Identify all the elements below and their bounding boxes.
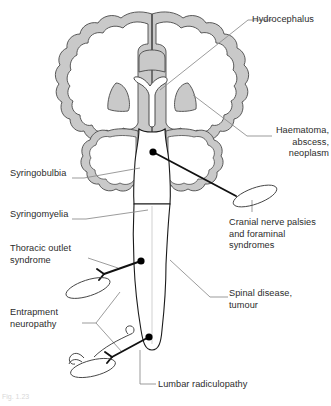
nerve-ellipses-group xyxy=(64,181,280,382)
label-cranial-nerve-palsies: Cranial nerve palsies and foraminal synd… xyxy=(229,217,329,252)
leader-spinal-disease xyxy=(170,260,228,297)
marker-cervical xyxy=(137,257,144,264)
entrapment-loop-upper xyxy=(126,326,134,334)
cerebrum-group xyxy=(55,12,248,146)
label-entrapment-neuropathy: Entrapment neuropathy xyxy=(10,307,82,330)
lower-nerve-trunk xyxy=(94,334,131,357)
spinal-cord xyxy=(133,204,170,350)
leader-entrapment-upper xyxy=(96,292,120,323)
brainstem xyxy=(134,129,171,204)
leader-thoracic-outlet xyxy=(88,258,118,268)
leader-entrapment-lower xyxy=(96,323,122,352)
lumbosacral-plexus-fork-a xyxy=(105,352,112,357)
entrapment-squiggle-a xyxy=(69,353,84,364)
brachial-plexus-fork-b xyxy=(99,274,104,280)
label-syringomyelia: Syringomyelia xyxy=(10,209,80,221)
leader-lumbar-radiculopathy xyxy=(140,350,156,384)
figure-caption: Fig. 1.23 xyxy=(2,392,29,401)
label-spinal-disease-tumour: Spinal disease, tumour xyxy=(229,288,315,311)
label-syringobulbia: Syringobulbia xyxy=(10,168,80,180)
corpus-callosum xyxy=(139,50,165,72)
brainstem-spinal-cord-group xyxy=(133,129,170,350)
marker-intracranial xyxy=(149,148,156,155)
lumbosacral-plexus-ellipse xyxy=(69,355,118,382)
brachial-plexus-ellipse xyxy=(64,273,113,302)
cranial-nerve-ellipse xyxy=(231,181,280,212)
anatomy-diagram-svg xyxy=(0,0,331,406)
lumbosacral-plexus-fork-b xyxy=(107,357,112,363)
brachial-plexus-fork-a xyxy=(97,269,104,274)
label-lumbar-radiculopathy: Lumbar radiculopathy xyxy=(158,379,270,391)
label-haematoma-abscess-neoplasm: Haematoma, abscess, neoplasm xyxy=(261,125,329,160)
label-thoracic-outlet-syndrome: Thoracic outlet syndrome xyxy=(10,243,88,266)
label-hydrocephalus: Hydrocephalus xyxy=(252,14,330,26)
marker-lumbar xyxy=(145,333,152,340)
anatomical-figure: Hydrocephalus Haematoma, abscess, neopla… xyxy=(0,0,331,406)
